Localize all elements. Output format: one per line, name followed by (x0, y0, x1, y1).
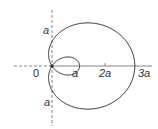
label-origin: 0 (33, 67, 39, 79)
label-2a: 2a (98, 67, 111, 79)
limacon-diagram: a a 0 a 2a 3a (0, 0, 158, 129)
label-3a: 3a (138, 67, 150, 79)
label-y-top: a (43, 24, 49, 36)
origin-point (50, 64, 53, 67)
label-inner-loop: a (72, 67, 78, 79)
label-y-bottom: a (44, 96, 50, 108)
